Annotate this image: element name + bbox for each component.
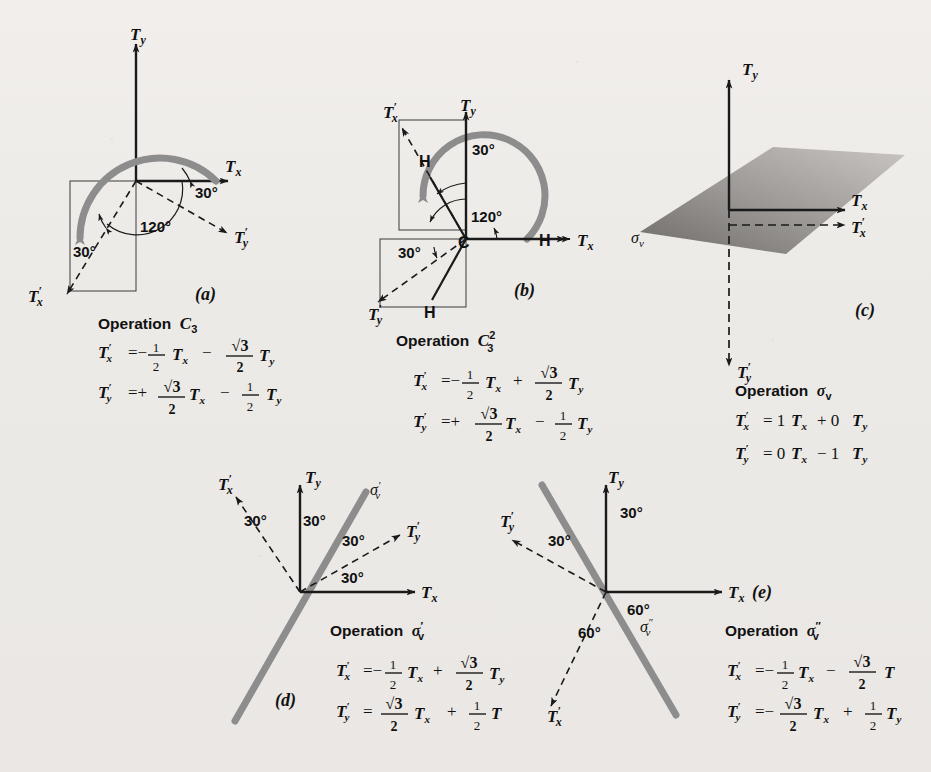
operation-label-a: Operation C3 [98, 314, 197, 335]
angle-arc-120-b [430, 199, 466, 222]
svg-text:+: + [447, 702, 457, 721]
label-ty-prime-e: T′y [500, 509, 515, 534]
angle-30-d-3: 30° [342, 532, 365, 549]
label-ty-d: Ty [305, 468, 321, 490]
svg-text:2: 2 [169, 402, 176, 417]
svg-text:1: 1 [467, 367, 474, 382]
svg-text:T: T [884, 663, 895, 682]
label-sigma-v-prime-d: σ′v [370, 479, 381, 501]
equations-a: Operation C3 T′x =− 1 2 Tx − √3 2 Ty T′y… [98, 314, 281, 417]
svg-text:−: − [202, 343, 212, 362]
svg-text:T′y: T′y [98, 381, 111, 404]
panel-e: Ty T′y T′x Tx σ″v 30° 30° 60° 60° (e) [500, 468, 772, 729]
angle-30-d-2: 30° [303, 512, 326, 529]
svg-text:=−: =− [755, 661, 774, 680]
equation-c-2: T′y = 0 Tx − 1 Ty [735, 442, 867, 465]
label-tx-c: Tx [851, 191, 867, 213]
panel-letter-a: (a) [195, 284, 216, 305]
equation-b-1: T′x =− 1 2 Tx + √3 2 Ty [413, 364, 583, 403]
equation-b-2: T′y =+ √3 2 Tx − 1 2 Ty [413, 405, 592, 444]
equations-b: Operation C23 T′x =− 1 2 Tx + √3 2 Ty T′… [396, 329, 592, 444]
atom-h-upper-b: H [419, 153, 431, 170]
angle-60-e-2: 60° [578, 624, 601, 641]
svg-text:2: 2 [466, 678, 473, 693]
angle-arc-30b-a [99, 214, 106, 228]
label-sigma-v-dprime-e: σ″v [640, 616, 653, 638]
label-tx-b: Tx [577, 231, 593, 253]
svg-text:2: 2 [391, 719, 398, 734]
atom-c-center-b: C [458, 234, 470, 251]
label-tx-prime-c: T′x [851, 215, 866, 240]
label-ty-a: Ty [130, 25, 146, 47]
angle-30-lower-b: 30° [398, 244, 421, 261]
equation-c-1: T′x = 1 Tx + 0 Ty [735, 409, 867, 432]
svg-text:1: 1 [247, 379, 254, 394]
svg-text:√3: √3 [164, 378, 181, 395]
svg-text:T: T [491, 704, 502, 723]
svg-text:Tx: Tx [172, 345, 188, 366]
angle-60-e-1: 60° [627, 601, 650, 618]
svg-text:Tx: Tx [791, 444, 807, 465]
angle-30-top-a: 30° [195, 184, 218, 201]
svg-text:Tx: Tx [505, 414, 521, 435]
svg-text:Ty: Ty [259, 346, 274, 367]
svg-text:√3: √3 [785, 695, 802, 712]
svg-text:=+: =+ [128, 383, 147, 402]
svg-text:− 1: − 1 [817, 444, 839, 463]
angle-30-lower-a: 30° [73, 243, 96, 260]
panel-letter-d: (d) [275, 690, 296, 711]
svg-text:2: 2 [247, 399, 254, 414]
svg-text:1: 1 [390, 657, 397, 672]
equation-e-1: T′x =− 1 2 Tx − √3 2 T [727, 653, 895, 692]
angle-30-d-1: 30° [244, 512, 267, 529]
equation-d-1: T′x =− 1 2 Tx + √3 2 Ty [336, 654, 504, 693]
svg-text:2: 2 [546, 388, 553, 403]
atom-h-right-b: H [539, 232, 551, 249]
operation-label-b: Operation C23 [396, 329, 495, 354]
svg-text:2: 2 [390, 677, 397, 692]
label-tx-a: Tx [225, 157, 241, 179]
label-ty-prime-a: T′y [234, 225, 249, 250]
svg-text:Ty: Ty [852, 411, 867, 432]
angle-arc-30-a [182, 168, 190, 181]
label-ty-prime-b: T′y [368, 302, 383, 327]
panel-c: Ty Tx T′x T′y σv (c) [631, 60, 905, 385]
construction-rect-b-top [399, 120, 466, 230]
angle-120-b: 120° [471, 208, 502, 225]
svg-text:√3: √3 [232, 337, 249, 354]
symmetry-operations-figure: Tx Ty T′y T′x 30° 120° 30° (a) Operation… [0, 0, 931, 772]
svg-text:Tx: Tx [813, 704, 829, 725]
svg-text:+: + [513, 371, 523, 390]
panel-b: T′x Ty T′y Tx H C H H 30° 120° 30° (b) [368, 96, 593, 327]
svg-text:T′x: T′x [727, 659, 741, 682]
operation-label-d: Operation σ′v [330, 620, 425, 642]
label-tx-prime-a: T′x [28, 284, 43, 309]
label-tx-prime-b: T′x [383, 100, 398, 125]
atom-h-lower-b: H [424, 304, 436, 321]
svg-text:Ty: Ty [577, 414, 592, 435]
svg-text:Ty: Ty [489, 664, 504, 685]
angle-arc-30-b [437, 183, 466, 194]
svg-text:2: 2 [153, 359, 160, 374]
svg-text:=−: =− [441, 371, 460, 390]
svg-text:T′y: T′y [735, 442, 748, 465]
svg-text:T′x: T′x [98, 341, 112, 364]
svg-text:+: + [843, 702, 853, 721]
panel-letter-c: (c) [855, 300, 875, 321]
svg-text:2: 2 [870, 718, 877, 733]
svg-text:+: + [433, 661, 443, 680]
svg-text:+ 0: + 0 [817, 411, 839, 430]
axis-ty-prime-b [378, 239, 466, 302]
svg-text:2: 2 [859, 677, 866, 692]
svg-text:−: − [826, 661, 836, 680]
svg-text:T′x: T′x [735, 409, 749, 432]
svg-text:2: 2 [467, 387, 474, 402]
svg-text:Tx: Tx [485, 373, 501, 394]
label-ty-e: Ty [608, 468, 624, 490]
svg-text:1: 1 [153, 340, 160, 355]
axis-tx-prime-e [551, 592, 606, 706]
equations-d: Operation σ′v T′x =− 1 2 Tx + √3 2 Ty T′… [330, 620, 504, 734]
svg-text:√3: √3 [541, 364, 558, 381]
equations-e: Operation σ″v T′x =− 1 2 Tx − √3 2 T T′y… [725, 620, 901, 734]
svg-text:−: − [535, 412, 545, 431]
